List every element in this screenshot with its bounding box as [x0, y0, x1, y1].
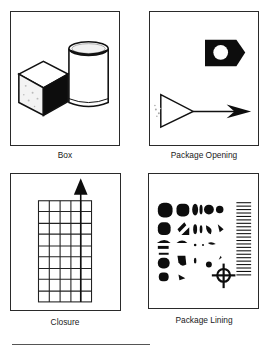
caption-box: Box — [8, 149, 122, 160]
panel-closure — [10, 173, 121, 311]
nut-and-arrow-icon — [150, 12, 258, 145]
grid-with-arrow-icon — [11, 174, 120, 310]
box-and-cylinder-icon — [11, 12, 119, 145]
caption-package-opening: Package Opening — [147, 149, 261, 160]
caption-package-lining: Package Lining — [147, 314, 261, 325]
panel-box — [10, 11, 120, 146]
panel-package-opening — [149, 11, 259, 146]
footnote-rule — [12, 344, 150, 345]
caption-closure: Closure — [8, 316, 122, 327]
halftone-dots-target-icon — [149, 174, 258, 308]
panel-package-lining — [148, 173, 259, 309]
